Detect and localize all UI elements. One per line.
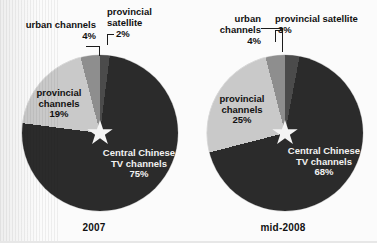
pie-chart-panel-2007: urban channels 4% provincial satellite 2… xyxy=(0,0,188,243)
callout-urban-channels-2007: urban channels 4% xyxy=(0,20,96,42)
chart-screenshot: urban channels 4% provincial satellite 2… xyxy=(0,0,377,243)
slice-label-provincial-channels-mid-2008: provincial channels 25% xyxy=(203,94,281,126)
slice-label-central-mid-2008: Central Chinese TV channels 68% xyxy=(281,146,367,178)
callout-satellite-value: 3% xyxy=(278,25,375,36)
callout-urban-value: 4% xyxy=(0,31,96,42)
leader-line-satellite-mid-2008-stem xyxy=(275,30,276,42)
slice-central-value: 68% xyxy=(281,167,367,178)
callout-provincial-satellite-2007: provincial satellite 2% xyxy=(107,7,187,40)
slice-central-value: 75% xyxy=(96,169,182,180)
slice-label-provincial-channels-2007: provincial channels 19% xyxy=(20,88,98,120)
chart-caption-2007: 2007 xyxy=(0,222,188,233)
leader-line-satellite-2007-stem xyxy=(107,34,108,45)
pie-2007 xyxy=(22,55,178,211)
pie-mid-2008 xyxy=(207,55,363,211)
slice-provincial-value: 25% xyxy=(203,115,281,126)
callout-urban-value: 4% xyxy=(189,36,261,47)
callout-urban-channels-mid-2008: urban channels 4% xyxy=(189,14,261,47)
chart-caption-mid-2008: mid-2008 xyxy=(189,222,377,233)
callout-satellite-value: 2% xyxy=(116,29,187,40)
leader-line-urban-2007 xyxy=(86,46,100,47)
slice-provincial-value: 19% xyxy=(20,109,98,120)
pie-chart-panel-mid-2008: urban channels 4% provincial satellite 3… xyxy=(189,0,377,243)
callout-provincial-satellite-mid-2008: provincial satellite 3% xyxy=(275,14,375,36)
leader-line-satellite-2007 xyxy=(107,34,114,35)
slice-label-central-2007: Central Chinese TV channels 75% xyxy=(96,148,182,180)
leader-line-satellite-mid-2008 xyxy=(275,30,282,31)
leader-line-urban-2007-stem xyxy=(99,46,100,56)
